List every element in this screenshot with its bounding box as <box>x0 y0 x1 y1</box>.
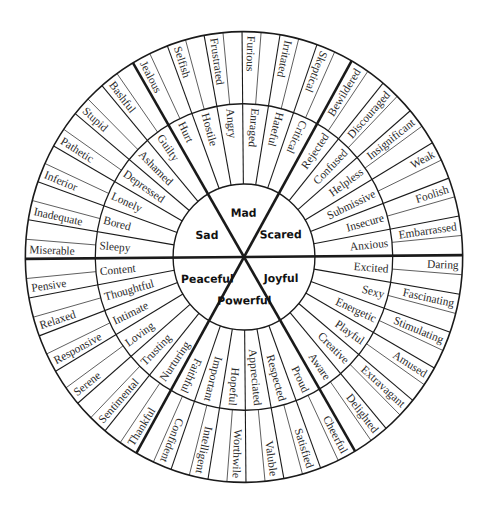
middle-emotion-anxious: Anxious <box>349 237 389 253</box>
middle-divider-line <box>245 330 246 482</box>
middle-emotion-content: Content <box>99 262 137 278</box>
middle-emotion-respected: Respected <box>264 353 289 403</box>
middle-emotion-thoughtful: Thoughtful <box>103 277 156 304</box>
core-emotion-mad: Mad <box>231 206 257 219</box>
outer-emotion-worthwile: Worthwile <box>231 429 244 478</box>
core-emotion-scared: Scared <box>260 228 302 242</box>
outer-emotion-furious: Furious <box>244 36 257 73</box>
outer-emotion-pensive: Pensive <box>31 277 68 294</box>
outer-emotion-frustrated: Frustrated <box>208 37 226 86</box>
middle-emotion-bored: Bored <box>102 214 132 233</box>
middle-emotion-sexy: Sexy <box>361 283 386 302</box>
outer-emotion-responsive: Responsive <box>52 330 104 367</box>
middle-divider-line <box>242 32 243 184</box>
middle-emotion-appreciated: Appreciated <box>246 348 264 406</box>
outer-emotion-sentimental: Sentimental <box>96 376 141 426</box>
middle-emotion-guilty: Guilty <box>154 132 181 164</box>
middle-emotion-sleepy: Sleepy <box>99 239 131 255</box>
outer-emotion-valuble: Valuble <box>263 440 280 477</box>
outer-emotion-serene: Serene <box>71 369 103 398</box>
outer-emotion-weak: Weak <box>408 148 436 171</box>
middle-emotion-angry: Angry <box>223 108 239 139</box>
middle-emotion-excited: Excited <box>353 260 389 275</box>
outer-emotion-delighted: Delighted <box>343 391 381 436</box>
middle-emotion-insecure: Insecure <box>345 211 385 233</box>
middle-emotion-hopeful: Hopeful <box>226 367 242 406</box>
outer-emotion-inferior: Inferior <box>43 168 80 193</box>
outer-emotion-foolish: Foolish <box>414 183 450 205</box>
outer-emotion-miserable: Miserable <box>29 243 75 257</box>
core-emotion-sad: Sad <box>195 229 218 242</box>
middle-emotion-faithful: Faithful <box>179 357 205 396</box>
outer-emotion-confident: Confident <box>158 417 186 466</box>
feelings-wheel: JoyfulExcitedSexyEnergeticPlayfulCreativ… <box>0 0 486 506</box>
outer-emotion-discouraged: Discouraged <box>345 88 393 141</box>
outer-emotion-relaxed: Relaxed <box>38 308 77 331</box>
core-emotion-joyful: Joyful <box>263 272 299 286</box>
core-emotion-powerful: Powerful <box>217 294 271 308</box>
core-emotion-peaceful: Peaceful <box>181 272 234 286</box>
outer-emotion-satisfied: Satisfied <box>293 427 317 470</box>
wheel-root: JoyfulExcitedSexyEnergeticPlayfulCreativ… <box>23 30 464 484</box>
middle-emotion-aware: Aware <box>306 351 333 383</box>
outer-emotion-selfish: Selfish <box>172 45 193 80</box>
outer-emotion-embarrassed: Embarrassed <box>398 220 458 240</box>
wheel-lines <box>23 30 464 484</box>
middle-emotion-enraged: Enraged <box>245 108 261 148</box>
middle-emotion-hurt: Hurt <box>176 120 196 145</box>
core-divider-line <box>25 257 244 259</box>
middle-emotion-lonely: Lonely <box>109 190 144 216</box>
outer-emotion-daring: Daring <box>427 258 459 272</box>
middle-emotion-critical: Critical <box>285 119 310 156</box>
